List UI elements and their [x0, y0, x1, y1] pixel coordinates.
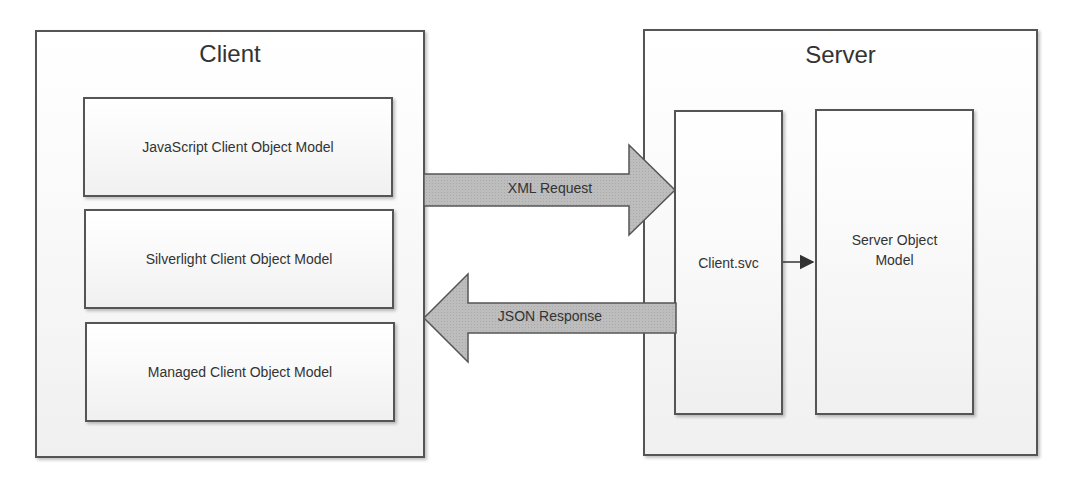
- arrows-layer: [0, 0, 1070, 483]
- xml-request-label: XML Request: [490, 180, 610, 196]
- json-response-label: JSON Response: [480, 308, 620, 324]
